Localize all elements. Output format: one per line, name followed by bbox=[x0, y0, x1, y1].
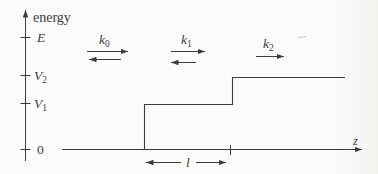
z-axis-label: z bbox=[352, 134, 358, 148]
wave-label-k2: k2 bbox=[263, 36, 274, 53]
tick-label-zero: 0 bbox=[37, 142, 44, 157]
tick-label-V2: V2 bbox=[34, 68, 47, 85]
step-potential-figure: energy E V2 V1 0 k0 k1 k2 z l bbox=[0, 0, 378, 174]
wave-label-k0: k0 bbox=[99, 32, 110, 49]
length-label: l bbox=[186, 155, 190, 170]
wave-label-k1: k1 bbox=[181, 32, 192, 49]
figure-canvas: energy E V2 V1 0 k0 k1 k2 z l bbox=[0, 0, 378, 174]
energy-axis-label: energy bbox=[33, 10, 71, 25]
tick-label-V1: V1 bbox=[34, 96, 47, 113]
potential-step-path bbox=[145, 78, 346, 150]
tick-label-E: E bbox=[36, 30, 46, 45]
scan-speck bbox=[298, 37, 306, 38]
